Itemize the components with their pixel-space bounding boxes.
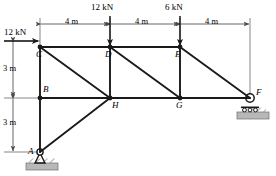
support-F-roller-0 xyxy=(243,108,247,112)
member-CH xyxy=(40,47,110,98)
joint-label-H: H xyxy=(112,101,119,110)
support-F-roller-1 xyxy=(248,108,252,112)
truss-diagram-canvas xyxy=(0,0,276,176)
joint-label-E: E xyxy=(175,50,181,59)
joint-label-C: C xyxy=(36,50,42,59)
dimension-label-span-B-A: 3 m xyxy=(3,118,16,127)
joint-label-B: B xyxy=(43,85,49,94)
joint-label-A: A xyxy=(28,147,34,156)
load-at-D-label: 12 kN xyxy=(91,3,113,12)
joint-label-F: F xyxy=(256,88,262,97)
joint-B xyxy=(38,96,43,101)
load-at-C-label: 12 kN xyxy=(4,28,26,37)
truss-diagram: ABCDEFGH12 kN12 kN6 kN4 m4 m4 m3 m3 m xyxy=(0,0,276,176)
load-at-E-label: 6 kN xyxy=(165,3,183,12)
member-layer xyxy=(40,47,250,152)
support-layer xyxy=(26,94,269,170)
support-F-ground xyxy=(237,112,269,119)
dimension-label-span-D-E: 4 m xyxy=(135,17,148,26)
member-AH xyxy=(40,98,110,152)
support-A-ground xyxy=(26,163,58,170)
dimension-label-span-C-D: 4 m xyxy=(65,17,78,26)
dimension-label-span-E-F: 4 m xyxy=(205,17,218,26)
member-EF xyxy=(180,47,250,98)
load-arrow-layer xyxy=(4,16,180,45)
joint-label-D: D xyxy=(105,50,112,59)
member-DG xyxy=(110,47,180,98)
joint-label-G: G xyxy=(176,101,183,110)
dimension-label-span-C-B: 3 m xyxy=(3,64,16,73)
support-F-roller-2 xyxy=(254,108,258,112)
